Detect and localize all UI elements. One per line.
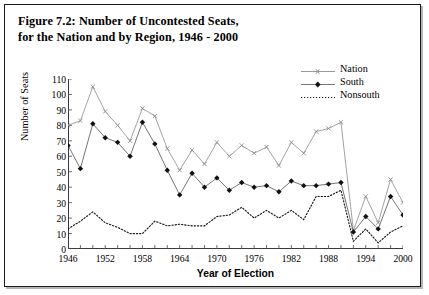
x-tick-1976: 1976 bbox=[237, 253, 271, 264]
x-tick-1994: 1994 bbox=[349, 253, 383, 264]
y-tick-40: 40 bbox=[42, 182, 66, 193]
y-tick-90: 90 bbox=[42, 104, 66, 115]
y-tick-70: 70 bbox=[42, 135, 66, 146]
y-tick-30: 30 bbox=[42, 197, 66, 208]
x-axis-title: Year of Election bbox=[68, 268, 403, 279]
x-tick-1964: 1964 bbox=[163, 253, 197, 264]
y-tick-20: 20 bbox=[42, 213, 66, 224]
y-tick-110: 110 bbox=[42, 74, 66, 85]
y-axis-title: Number of Seats bbox=[19, 42, 30, 172]
x-tick-1988: 1988 bbox=[312, 253, 346, 264]
y-axis-tick-labels: 0102030405060708090100110 bbox=[41, 79, 66, 249]
legend-swatch-nation bbox=[301, 63, 335, 74]
x-tick-1952: 1952 bbox=[88, 253, 122, 264]
x-tick-1982: 1982 bbox=[274, 253, 308, 264]
y-tick-80: 80 bbox=[42, 120, 66, 131]
figure-caption: Figure 7.2: Number of Uncontested Seats,… bbox=[18, 14, 408, 45]
y-tick-50: 50 bbox=[42, 166, 66, 177]
figure-caption-line-2: for the Nation and by Region, 1946 - 200… bbox=[18, 30, 408, 46]
x-tick-1958: 1958 bbox=[125, 253, 159, 264]
x-tick-1946: 1946 bbox=[51, 253, 85, 264]
figure-caption-line-1: Figure 7.2: Number of Uncontested Seats, bbox=[18, 14, 408, 30]
legend-item-nation: Nation bbox=[301, 62, 413, 75]
plot-area bbox=[68, 79, 403, 249]
y-tick-10: 10 bbox=[42, 228, 66, 239]
y-tick-60: 60 bbox=[42, 151, 66, 162]
legend-label-nation: Nation bbox=[335, 63, 368, 74]
x-tick-1970: 1970 bbox=[200, 253, 234, 264]
chart-canvas bbox=[68, 79, 403, 249]
x-axis-tick-labels: 1946195219581964197019761982198819942000 bbox=[68, 253, 403, 267]
y-tick-100: 100 bbox=[42, 89, 66, 100]
x-tick-2000: 2000 bbox=[386, 253, 420, 264]
figure-frame: Figure 7.2: Number of Uncontested Seats,… bbox=[4, 4, 421, 287]
